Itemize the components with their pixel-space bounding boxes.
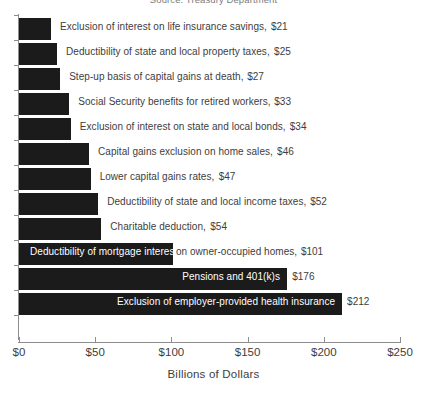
bar[interactable]	[19, 168, 91, 190]
x-axis-tick-label: $0	[13, 346, 26, 358]
x-axis-tick	[400, 337, 401, 342]
bar-label: Capital gains exclusion on home sales,	[98, 146, 273, 157]
y-axis-tick	[14, 240, 19, 241]
bar-label: Pensions and 401(k)s	[182, 271, 280, 282]
bar[interactable]	[19, 118, 71, 140]
bar-value: $25	[274, 46, 291, 57]
y-axis-tick	[14, 40, 19, 41]
y-axis-tick	[14, 140, 19, 141]
y-axis-tick	[14, 90, 19, 91]
bar-value: $176	[292, 271, 314, 282]
x-axis-tick-label: $50	[86, 346, 105, 358]
y-axis-tick	[14, 215, 19, 216]
y-axis-tick	[14, 115, 19, 116]
bar-label: Step-up basis of capital gains at death,	[69, 71, 243, 82]
x-axis-tick	[19, 337, 20, 342]
y-axis-tick	[14, 65, 19, 66]
y-axis-tick	[14, 165, 19, 166]
bar-row[interactable]: Charitable deduction, $54	[0, 217, 427, 242]
x-axis-title: Billions of Dollars	[0, 368, 427, 380]
x-axis-tick	[324, 337, 325, 342]
bar-value: $52	[310, 196, 327, 207]
bar-row[interactable]: Deductibility of state and local propert…	[0, 42, 427, 67]
bar-label: Social Security benefits for retired wor…	[78, 96, 270, 107]
bar[interactable]	[19, 68, 60, 90]
bar-value: $33	[274, 96, 291, 107]
bar-value: $101	[301, 246, 323, 257]
x-axis-tick-label: $100	[159, 346, 185, 358]
bar-label: Deductibility of state and local propert…	[66, 46, 270, 57]
bar-row[interactable]: Lower capital gains rates, $47	[0, 167, 427, 192]
bar-row[interactable]: Deductibility of state and local income …	[0, 192, 427, 217]
y-axis-tick	[14, 190, 19, 191]
x-axis-tick	[248, 337, 249, 342]
x-axis-tick	[171, 337, 172, 342]
bar[interactable]	[19, 143, 89, 165]
bar-label: Exclusion of interest on state and local…	[80, 121, 286, 132]
bar-row[interactable]: Capital gains exclusion on home sales, $…	[0, 142, 427, 167]
bar-value: $21	[271, 21, 288, 32]
y-axis-tick	[14, 315, 19, 316]
bar-label: Deductibility of mortgage interest	[30, 246, 177, 257]
source-credit: Source: Treasury Department	[0, 0, 427, 5]
y-axis-tick	[14, 290, 19, 291]
bar-label: Exclusion of employer-provided health in…	[117, 296, 335, 307]
bar-label: Lower capital gains rates,	[100, 171, 215, 182]
chart-plot-area: Exclusion of interest on life insurance …	[0, 12, 427, 342]
x-axis-tick-label: $200	[311, 346, 337, 358]
bar[interactable]	[19, 93, 69, 115]
bar-value: $54	[210, 221, 227, 232]
bar-label-tail: on owner-occupied homes,	[176, 246, 297, 257]
bar-label: Charitable deduction,	[110, 221, 206, 232]
x-axis-line	[18, 342, 401, 343]
y-axis-tick	[14, 265, 19, 266]
x-axis-tick	[95, 337, 96, 342]
bar-row[interactable]: Step-up basis of capital gains at death,…	[0, 67, 427, 92]
x-axis-tick-label: $150	[235, 346, 261, 358]
bar-row[interactable]: Social Security benefits for retired wor…	[0, 92, 427, 117]
bar-value: $47	[219, 171, 236, 182]
bar-row[interactable]: Exclusion of interest on life insurance …	[0, 17, 427, 42]
bar[interactable]	[19, 43, 57, 65]
bar-value: $212	[347, 296, 369, 307]
bar[interactable]	[19, 218, 101, 240]
y-axis-tick	[14, 15, 19, 16]
bar[interactable]	[19, 18, 51, 40]
bar-row[interactable]: Exclusion of employer-provided health in…	[0, 292, 427, 317]
bar-row[interactable]: Pensions and 401(k)s$176	[0, 267, 427, 292]
bar-value: $34	[290, 121, 307, 132]
bar[interactable]	[19, 193, 98, 215]
bar-row[interactable]: Deductibility of mortgage interest on ow…	[0, 242, 427, 267]
x-axis-tick-label: $250	[387, 346, 413, 358]
bar-value: $46	[277, 146, 294, 157]
bar-label: Exclusion of interest on life insurance …	[60, 21, 267, 32]
bar-value: $27	[247, 71, 264, 82]
bar-label: Deductibility of state and local income …	[107, 196, 306, 207]
bar-row[interactable]: Exclusion of interest on state and local…	[0, 117, 427, 142]
